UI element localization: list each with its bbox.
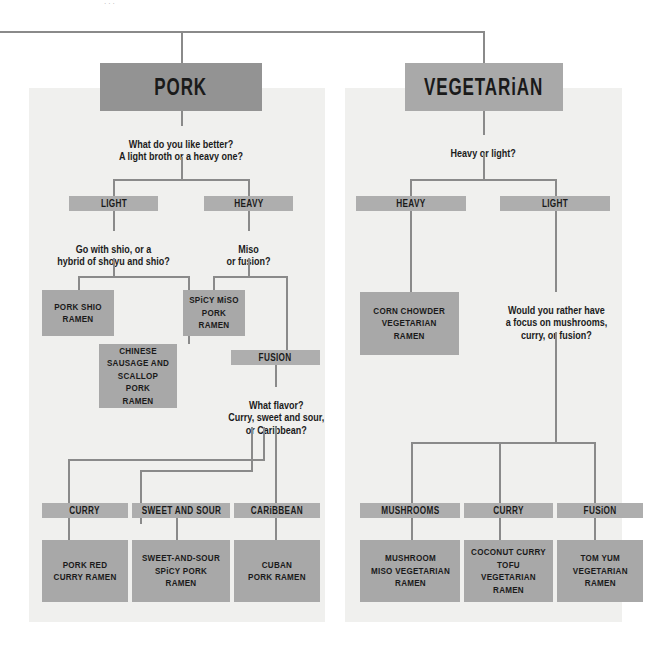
veg-line-to-mushrooms <box>411 442 413 503</box>
vegetarian-choice-fusion[interactable]: FUSiON <box>557 503 643 518</box>
pork-choice-caribbean[interactable]: CARiBBEAN <box>234 503 320 518</box>
pork-choice-fusion[interactable]: FUSION <box>231 350 320 365</box>
pork-line-q1-down <box>181 157 183 179</box>
pork-result-chinese-sausage[interactable]: CHINESE SAUSAGE AND SCALLOP PORK RAMEN <box>99 344 177 408</box>
pork-line-to-shio <box>78 276 80 290</box>
trunk-drop-pork <box>181 31 183 64</box>
pork-line-light-to-question <box>113 211 115 231</box>
vegetarian-result-mushroom-miso[interactable]: MUSHROOM MISO VEGETARIAN RAMEN <box>360 540 460 602</box>
veg-line-heavy-to-result <box>410 211 412 292</box>
pork-line-to-fusion <box>286 276 288 350</box>
pork-choice-light[interactable]: LIGHT <box>69 196 158 211</box>
pork-choice-sweet-and-sour[interactable]: SWEET AND SOUR <box>132 503 230 518</box>
veg-line-mushrooms-to-result <box>411 518 413 540</box>
pork-line-to-heavy <box>248 179 250 196</box>
clipped-text-top: · · · <box>104 0 115 6</box>
vegetarian-choice-light[interactable]: LIGHT <box>500 196 610 211</box>
pork-line-sweet-sour-to-result <box>176 518 178 540</box>
veg-line-to-fusion <box>594 442 596 503</box>
veg-line-curry-to-result <box>499 518 501 540</box>
pork-line-to-spicy-miso <box>213 276 215 290</box>
pork-line-to-light <box>113 179 115 196</box>
vegetarian-header-block[interactable]: VEGETARiAN <box>405 63 563 111</box>
vegetarian-choice-heavy[interactable]: HEAVY <box>356 196 466 211</box>
pork-line-fusion-mid-down-1 <box>251 427 253 472</box>
vegetarian-choice-mushrooms[interactable]: MUSHROOMS <box>360 503 460 518</box>
pork-line-header-to-q1 <box>181 111 183 126</box>
pork-result-cuban[interactable]: CUBAN PORK RAMEN <box>234 540 320 602</box>
vegetarian-result-corn-chowder[interactable]: CORN CHOWDER VEGETARIAN RAMEN <box>360 292 459 355</box>
pork-line-fusion-mid-across <box>140 470 253 472</box>
pork-result-shio[interactable]: PORK SHIO RAMEN <box>42 290 114 336</box>
veg-split-heavy-light <box>410 179 556 181</box>
pork-light-split <box>78 276 190 278</box>
veg-line-to-light <box>555 179 557 196</box>
veg-line-q1-down <box>483 153 485 179</box>
veg-line-light-to-question <box>555 211 557 292</box>
vegetarian-choice-curry[interactable]: CURRY <box>464 503 553 518</box>
pork-choice-heavy[interactable]: HEAVY <box>204 196 293 211</box>
pork-line-fusion-left-across <box>68 459 265 461</box>
pork-line-light-q-down <box>113 258 115 276</box>
veg-line-to-curry <box>499 442 501 503</box>
trunk-drop-vegetarian <box>483 31 485 64</box>
veg-line-fusion-to-result <box>594 518 596 540</box>
pork-result-sweet-and-sour[interactable]: SWEET-AND-SOUR SPiCY PORK RAMEN <box>132 540 230 602</box>
trunk-horizontal-line <box>0 31 485 33</box>
veg-line-header-to-q1 <box>483 111 485 135</box>
veg-line-to-heavy <box>410 179 412 196</box>
pork-line-curry-to-result <box>68 518 70 540</box>
pork-line-caribbean-to-result <box>275 518 277 540</box>
pork-result-spicy-miso[interactable]: SPiCY MiSO PORK RAMEN <box>183 290 245 336</box>
pork-header-block[interactable]: PORK <box>100 63 262 111</box>
vegetarian-result-coconut-curry[interactable]: COCONUT CURRY TOFU VEGETARIAN RAMEN <box>464 540 553 602</box>
veg-line-light-q-down <box>555 332 557 442</box>
veg-three-way-split <box>411 442 596 444</box>
pork-result-red-curry[interactable]: PORK RED CURRY RAMEN <box>42 540 128 602</box>
pork-line-fusion-left-down-1 <box>263 427 265 461</box>
pork-line-fusion-to-question <box>275 365 277 387</box>
ramen-flowchart-page: · · · PORK What do you like better? A li… <box>0 0 650 648</box>
pork-header-label: PORK <box>155 76 208 99</box>
pork-split-light-heavy <box>113 179 250 181</box>
pork-line-heavy-q-down <box>248 258 250 276</box>
vegetarian-header-label: VEGETARiAN <box>424 76 543 99</box>
pork-choice-curry[interactable]: CURRY <box>42 503 128 518</box>
vegetarian-result-tom-yum[interactable]: TOM YUM VEGETARIAN RAMEN <box>557 540 643 602</box>
pork-heavy-split <box>213 276 288 278</box>
pork-line-heavy-to-question <box>248 211 250 231</box>
